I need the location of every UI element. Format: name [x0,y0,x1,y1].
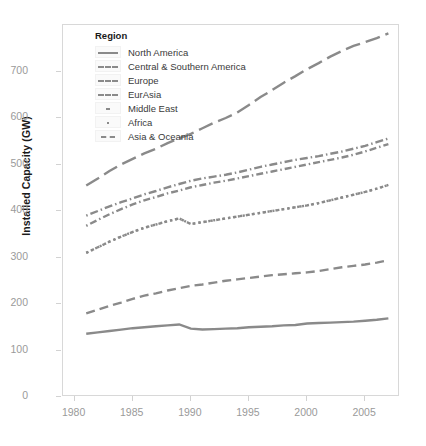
y-tick-mark [56,257,61,258]
legend-item-label: Middle East [128,103,178,114]
series-line [86,185,388,253]
legend-item-label: Central & Southern America [128,61,246,72]
y-tick-mark [56,210,61,211]
x-tick-label: 1995 [225,406,271,418]
y-tick-label: 500 [0,157,28,169]
y-tick-mark [56,71,61,72]
series-line [86,318,388,333]
y-tick-mark [56,350,61,351]
y-tick-label: 600 [0,110,28,122]
line-chart: Installed Capacity (GW) 0100200300400500… [0,0,426,446]
y-axis-title: Installed Capacity (GW) [20,76,32,276]
legend-line-swatch-icon [95,130,121,142]
y-tick-mark [56,396,61,397]
x-tick-label: 1985 [109,406,155,418]
legend-line-swatch-icon [95,60,121,72]
legend-item-central-southern-america[interactable]: Central & Southern America [95,59,246,73]
y-tick-mark [56,303,61,304]
legend-item-europe[interactable]: Europe [95,73,246,87]
x-tick-label: 2005 [341,406,387,418]
y-tick-label: 700 [0,64,28,76]
legend-line-swatch-icon [95,102,121,114]
legend-item-label: North America [128,47,188,58]
legend-item-north-america[interactable]: North America [95,45,246,59]
legend-item-africa[interactable]: Africa [95,115,246,129]
y-tick-label: 400 [0,203,28,215]
series-line [86,144,388,226]
series-line [86,185,388,253]
legend-item-label: Asia & Oceania [128,131,193,142]
legend-line-swatch-icon [95,116,121,128]
x-tick-label: 2000 [283,406,329,418]
series-line [86,260,388,313]
legend-line-swatch-icon [95,88,121,100]
x-tick-label: 1980 [51,406,97,418]
y-tick-mark [56,117,61,118]
y-tick-label: 100 [0,343,28,355]
legend-item-label: Africa [128,117,152,128]
y-tick-label: 200 [0,296,28,308]
legend-item-middle-east[interactable]: Middle East [95,101,246,115]
y-tick-mark [56,164,61,165]
legend-item-label: Europe [128,75,159,86]
legend-line-swatch-icon [95,74,121,86]
legend-item-eurasia[interactable]: EurAsia [95,87,246,101]
legend-item-asia-oceania[interactable]: Asia & Oceania [95,129,246,143]
legend-title: Region [95,30,246,41]
legend-item-label: EurAsia [128,89,161,100]
y-tick-label: 300 [0,250,28,262]
y-tick-label: 0 [0,389,28,401]
legend: Region North AmericaCentral & Southern A… [95,30,246,143]
legend-line-swatch-icon [95,46,121,58]
x-tick-label: 1990 [167,406,213,418]
